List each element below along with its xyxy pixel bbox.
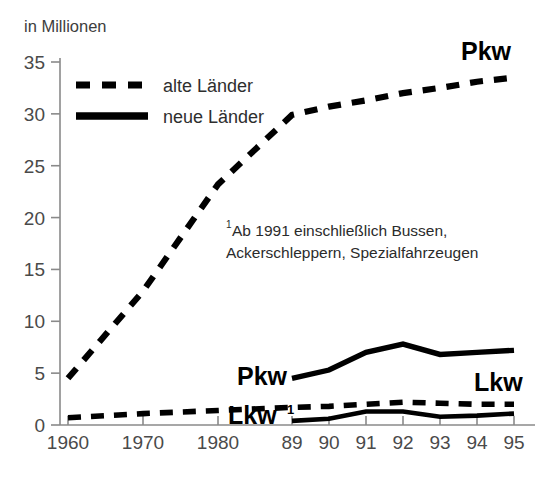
y-tick-label: 25 [24, 156, 45, 177]
y-axis-tick-labels: 05101520253035 [24, 52, 45, 436]
x-tick-label: 93 [429, 432, 450, 453]
y-axis-unit-label: in Millionen [24, 17, 107, 35]
x-tick-label: 1960 [47, 432, 89, 453]
x-tick-label: 92 [392, 432, 413, 453]
footnote-line-2: Ackerschleppern, Spezialfahrzeugen [226, 244, 478, 261]
y-tick-label: 15 [24, 259, 45, 280]
series-label-pkw-neue-laender: Pkw [237, 362, 288, 390]
y-tick-label: 30 [24, 104, 45, 125]
y-tick-label: 35 [24, 52, 45, 73]
chart-legend: alte Länder neue Länder [76, 76, 264, 127]
x-tick-label: 95 [503, 432, 524, 453]
series-label-pkw-alte-laender: Pkw [461, 37, 512, 65]
series-label-lkw-superscript: 1 [287, 402, 294, 417]
y-tick-label: 20 [24, 208, 45, 229]
x-tick-label: 90 [318, 432, 339, 453]
x-tick-label: 1970 [122, 432, 164, 453]
line-chart: in Millionen 05101520253035 196019701980… [0, 0, 558, 479]
y-tick-label: 0 [34, 415, 45, 436]
y-tick-label: 10 [24, 311, 45, 332]
chart-container: in Millionen 05101520253035 196019701980… [0, 0, 558, 479]
footnote-line-1: Ab 1991 einschließlich Bussen, [232, 222, 447, 239]
legend-label-neue-laender: neue Länder [163, 107, 264, 127]
x-tick-label: 1980 [197, 432, 239, 453]
x-tick-label: 91 [355, 432, 376, 453]
x-tick-label: 89 [281, 432, 302, 453]
legend-label-alte-laender: alte Länder [163, 76, 253, 96]
footnote-annotation: 1 Ab 1991 einschließlich Bussen, Ackersc… [226, 219, 478, 261]
x-axis-tick-labels: 19601970198089909192939495 [47, 432, 525, 453]
series-label-lkw-alte-laender: Lkw [228, 401, 277, 429]
series-label-lkw-right: Lkw [474, 368, 523, 396]
y-tick-label: 5 [34, 363, 45, 384]
y-axis-ticks [51, 62, 60, 425]
x-tick-label: 94 [466, 432, 488, 453]
